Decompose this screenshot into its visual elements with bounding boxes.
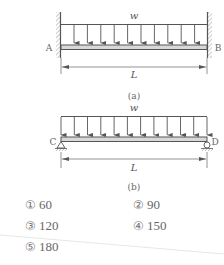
scan-edge-line (0, 0, 224, 265)
